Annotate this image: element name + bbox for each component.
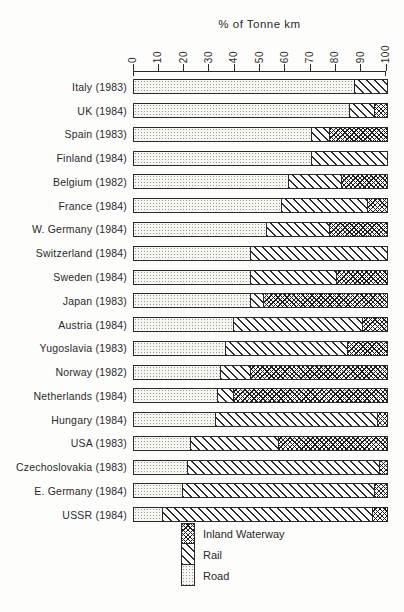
country-label: Switzerland (1984)	[0, 247, 133, 259]
bar-segment-road	[134, 294, 250, 307]
chart-row: Norway (1982)	[0, 360, 404, 384]
bar-segment-road	[134, 366, 220, 379]
legend-item: Inland Waterway	[181, 523, 285, 544]
legend-label: Inland Waterway	[195, 528, 285, 540]
legend-swatch-diagonal	[181, 544, 195, 565]
x-axis: % of Tonne km 0102030405060708090100	[133, 20, 386, 72]
bar-segment-inland-waterway	[362, 318, 387, 331]
chart-row: Italy (1983)	[0, 75, 404, 99]
bar-segment-road	[134, 223, 266, 236]
bar-segment-inland-waterway	[233, 389, 387, 402]
bar-segment-inland-waterway	[329, 128, 387, 141]
x-tick-label: 30	[204, 51, 214, 63]
stacked-bar	[133, 341, 388, 356]
bar-segment-road	[134, 508, 162, 521]
legend-item: Road	[181, 565, 285, 586]
bar-segment-rail	[187, 461, 379, 474]
legend: Inland Waterway Rail Road	[181, 523, 285, 586]
bar-segment-rail	[162, 508, 372, 521]
bar-segment-inland-waterway	[372, 508, 387, 521]
x-tick-label: 50	[255, 51, 265, 63]
bar-segment-rail	[349, 104, 374, 117]
stacked-bar	[133, 127, 388, 142]
bar-segment-inland-waterway	[374, 104, 387, 117]
country-label: E. Germany (1984)	[0, 485, 133, 497]
country-label: Italy (1983)	[0, 81, 133, 93]
chart-row: E. Germany (1984)	[0, 479, 404, 503]
stacked-bar	[133, 151, 388, 166]
legend-label: Rail	[195, 549, 222, 561]
chart-row: Czechoslovakia (1983)	[0, 455, 404, 479]
stacked-bar	[133, 460, 388, 475]
country-label: France (1984)	[0, 200, 133, 212]
chart-row: Spain (1983)	[0, 123, 404, 147]
stacked-bar	[133, 293, 388, 308]
country-label: Yugoslavia (1983)	[0, 342, 133, 354]
stacked-bar	[133, 103, 388, 118]
bar-segment-road	[134, 461, 187, 474]
bar-segment-road	[134, 437, 190, 450]
stacked-bar	[133, 483, 388, 498]
bar-segment-rail	[311, 152, 387, 165]
x-tick-label: 0	[128, 57, 138, 63]
bar-segment-road	[134, 152, 311, 165]
x-tick-mark	[158, 64, 159, 71]
stacked-bar	[133, 79, 388, 94]
bar-segment-rail	[281, 199, 367, 212]
country-label: Austria (1984)	[0, 319, 133, 331]
bar-segment-rail	[217, 389, 232, 402]
chart-row: Netherlands (1984)	[0, 384, 404, 408]
x-tick-label: 40	[229, 51, 239, 63]
chart-row: Switzerland (1984)	[0, 241, 404, 265]
bar-segment-rail	[354, 80, 387, 93]
x-tick-mark	[310, 64, 311, 71]
country-label: Hungary (1984)	[0, 414, 133, 426]
chart-row: Hungary (1984)	[0, 408, 404, 432]
chart-row: Austria (1984)	[0, 313, 404, 337]
legend-label: Road	[195, 570, 229, 582]
bar-segment-rail	[250, 271, 336, 284]
chart-row: France (1984)	[0, 194, 404, 218]
bar-segment-road	[134, 389, 217, 402]
x-tick-label: 100	[381, 45, 391, 63]
country-label: USA (1983)	[0, 437, 133, 449]
legend-swatch-crosshatch	[181, 523, 195, 544]
bar-segment-road	[134, 271, 250, 284]
chart-row: UK (1984)	[0, 99, 404, 123]
bar-segment-rail	[250, 247, 387, 260]
country-label: Belgium (1982)	[0, 176, 133, 188]
bar-segment-road	[134, 199, 281, 212]
bar-segment-road	[134, 413, 215, 426]
bar-segment-inland-waterway	[347, 342, 387, 355]
bar-segment-inland-waterway	[250, 366, 387, 379]
bar-segment-rail	[215, 413, 377, 426]
x-tick-mark	[133, 64, 134, 71]
stacked-bar	[133, 246, 388, 261]
chart-row: Belgium (1982)	[0, 170, 404, 194]
chart-row: Japan (1983)	[0, 289, 404, 313]
chart-row: W. Germany (1984)	[0, 218, 404, 242]
x-tick-label: 80	[330, 51, 340, 63]
stacked-bar	[133, 174, 388, 189]
bar-segment-road	[134, 484, 182, 497]
x-tick-label: 60	[280, 51, 290, 63]
country-label: Sweden (1984)	[0, 271, 133, 283]
bar-segment-rail	[266, 223, 329, 236]
chart-row: Sweden (1984)	[0, 265, 404, 289]
bar-segment-inland-waterway	[379, 461, 387, 474]
stacked-bar	[133, 507, 388, 522]
stacked-bar	[133, 412, 388, 427]
country-label: Japan (1983)	[0, 295, 133, 307]
x-tick-label: 90	[356, 51, 366, 63]
axis-line	[133, 71, 386, 72]
chart-row: Finland (1984)	[0, 146, 404, 170]
bar-segment-road	[134, 175, 288, 188]
stacked-bar	[133, 388, 388, 403]
x-tick-mark	[208, 64, 209, 71]
bars-area: Italy (1983) UK (1984) Spain (1983) Finl…	[0, 75, 404, 527]
bar-segment-inland-waterway	[367, 199, 387, 212]
x-tick-mark	[183, 64, 184, 71]
axis-title: % of Tonne km	[133, 18, 386, 30]
x-tick-label: 20	[179, 51, 189, 63]
country-label: UK (1984)	[0, 105, 133, 117]
